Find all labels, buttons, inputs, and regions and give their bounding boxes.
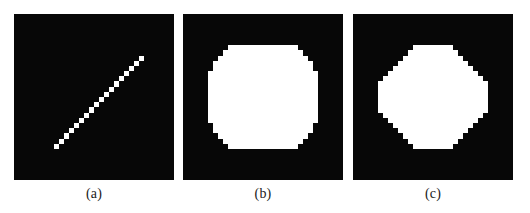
rasterized-disk-octagonal [353, 14, 513, 180]
panel-b [183, 14, 343, 180]
panel-caption-a: (a) [14, 184, 174, 204]
rasterized-diagonal-line [14, 14, 174, 180]
rasterized-disk-coarse [183, 14, 343, 180]
figure-container: (a) (b) (c) [0, 0, 530, 213]
panel-caption-c: (c) [353, 184, 513, 204]
panel-a [14, 14, 174, 180]
panel-c [353, 14, 513, 180]
panel-caption-b: (b) [183, 184, 343, 204]
